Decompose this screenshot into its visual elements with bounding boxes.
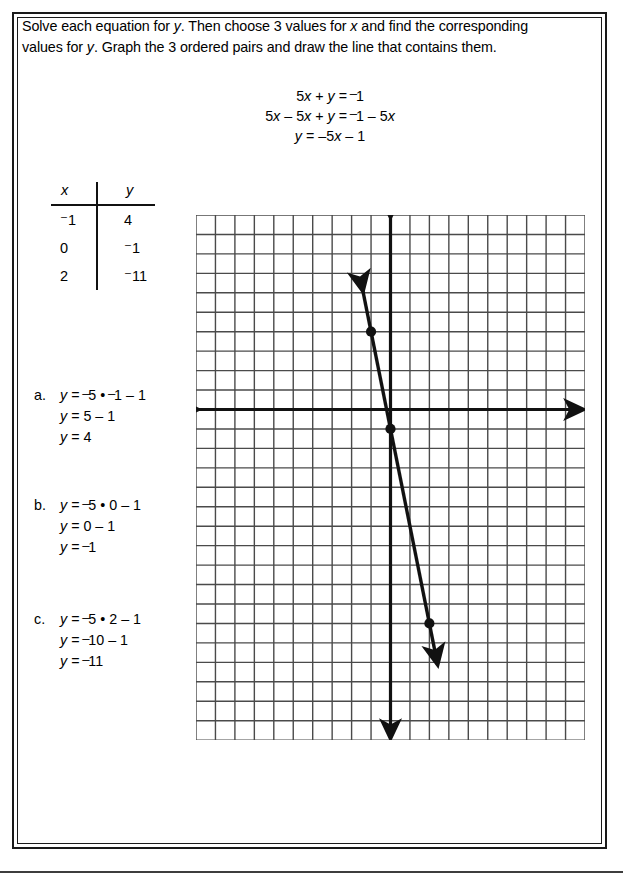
table-row: 2	[60, 268, 68, 284]
sa2-expression: = 5 – 1	[67, 408, 115, 424]
table-header-y: y	[126, 182, 133, 198]
sa1-equals: =	[67, 387, 83, 403]
eq2-rhs-minus-5: – 5	[364, 108, 388, 124]
solution-c-step-2: y = 10 – 1	[60, 630, 194, 651]
sa1-minus-one: – 1	[122, 387, 146, 403]
solution-a-step-1: y = 5 • 1 – 1	[60, 385, 194, 406]
solution-item-a: a. y = 5 • 1 – 1 y = 5 – 1 y = 4	[34, 385, 194, 448]
table-horizontal-divider	[51, 204, 155, 206]
equation-line-2: 5x – 5x + y = 1 – 5x	[160, 106, 500, 126]
table-header-x: x	[61, 182, 68, 198]
solution-c-step-3: y = 11	[60, 651, 194, 672]
sb3-result: 1	[88, 539, 96, 555]
sb1-neg-five: 5	[88, 497, 96, 513]
table-row: ⁻11	[124, 268, 147, 284]
solution-item-b: b. y = 5 • 0 – 1 y = 0 – 1 y = 1	[34, 495, 194, 558]
table-row: 4	[124, 212, 132, 228]
table-vertical-divider	[96, 182, 98, 290]
eq3-equals-neg5: = –5	[302, 128, 334, 144]
sc3-result: 11	[88, 653, 103, 669]
eq3-minus-1: – 1	[341, 128, 365, 144]
solution-b-letter: b.	[34, 495, 56, 516]
xy-value-table: x y ⁻1 4 0 ⁻1 2 ⁻11	[48, 182, 168, 292]
eq3-var-y: y	[295, 128, 302, 144]
sa1-neg-one: 1	[114, 387, 122, 403]
instructions-var-y-1: y	[174, 18, 181, 34]
instructions-segment-4: . Graph the 3 ordered pairs and draw the…	[94, 39, 497, 55]
instructions-var-y-2: y	[87, 39, 94, 55]
eq1-equals: =	[335, 88, 351, 104]
instructions-segment-1: Solve each equation for	[22, 18, 174, 34]
table-row: 0	[60, 240, 68, 256]
sb3-equals: =	[67, 539, 83, 555]
solution-b-steps: y = 5 • 0 – 1 y = 0 – 1 y = 1	[60, 495, 194, 558]
sb1-equals: =	[67, 497, 83, 513]
sc3-equals: =	[67, 653, 83, 669]
sa3-result: = 4	[67, 429, 91, 445]
solution-item-c: c. y = 5 • 2 – 1 y = 10 – 1 y = 11	[34, 609, 194, 672]
solution-a-step-3: y = 4	[60, 427, 194, 448]
solution-c-steps: y = 5 • 2 – 1 y = 10 – 1 y = 11	[60, 609, 194, 672]
sb1-rest: • 0 – 1	[96, 497, 141, 513]
table-row: ⁻1	[124, 240, 140, 256]
eq1-plus: +	[311, 88, 327, 104]
solution-b-step-1: y = 5 • 0 – 1	[60, 495, 194, 516]
graph-svg	[196, 215, 585, 740]
solution-a-letter: a.	[34, 385, 56, 406]
equation-line-3: y = –5x – 1	[160, 126, 500, 146]
solution-a-steps: y = 5 • 1 – 1 y = 5 – 1 y = 4	[60, 385, 194, 448]
instructions-text: Solve each equation for y. Then choose 3…	[22, 16, 562, 58]
coordinate-graph	[196, 215, 585, 740]
table-row: ⁻1	[60, 212, 76, 228]
eq1-coefficient: 5	[296, 88, 304, 104]
sc1-neg-five: 5	[88, 611, 96, 627]
sc2-equals: =	[67, 632, 83, 648]
solution-b-step-3: y = 1	[60, 537, 194, 558]
eq2-var-y: y	[328, 108, 335, 124]
sc1-equals: =	[67, 611, 83, 627]
solution-a-step-2: y = 5 – 1	[60, 406, 194, 427]
axes	[198, 217, 583, 738]
eq2-minus-5: – 5	[280, 108, 304, 124]
plot-line	[363, 291, 438, 664]
page-bottom-rule	[0, 871, 623, 873]
eq2-var-x-3: x	[388, 108, 395, 124]
eq2-equals: =	[335, 108, 351, 124]
eq2-rhs-constant: 1	[356, 108, 364, 124]
sc2-expression: 10 – 1	[88, 632, 128, 648]
eq1-var-y: y	[328, 88, 335, 104]
solution-b-step-2: y = 0 – 1	[60, 516, 194, 537]
solution-c-step-1: y = 5 • 2 – 1	[60, 609, 194, 630]
sa1-neg-five: 5	[88, 387, 96, 403]
eq2-coefficient: 5	[265, 108, 273, 124]
eq2-plus: +	[311, 108, 327, 124]
equation-line-1: 5x + y = 1	[160, 86, 500, 106]
solution-c-letter: c.	[34, 609, 56, 630]
equation-derivation-block: 5x + y = 1 5x – 5x + y = 1 – 5x y = –5x …	[160, 86, 500, 146]
sc1-rest: • 2 – 1	[96, 611, 141, 627]
eq1-rhs: 1	[356, 88, 364, 104]
sb2-expression: = 0 – 1	[67, 518, 115, 534]
instructions-segment-2: . Then choose 3 values for	[181, 18, 351, 34]
